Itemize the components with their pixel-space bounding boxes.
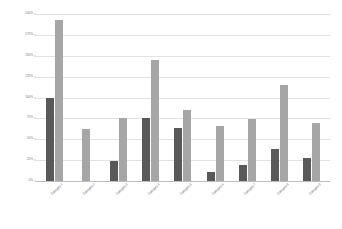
x-label-slot: Category 8: [264, 181, 296, 229]
bar: [183, 110, 191, 181]
bar: [280, 85, 288, 181]
x-tick-label: Category 7: [244, 183, 257, 196]
bar-group: [135, 14, 167, 181]
bar-group: [199, 14, 231, 181]
bar: [207, 172, 215, 181]
bar: [303, 158, 311, 181]
bar: [119, 118, 127, 181]
bar: [216, 126, 224, 181]
plot-area: 0%25%50%75%100%125%150%175%200%: [36, 14, 330, 181]
x-tick-label: Category 5: [180, 183, 193, 196]
x-tick-label: Category 4: [148, 183, 161, 196]
y-tick-label: 50%: [27, 138, 33, 141]
x-axis-labels: Category 1Category 2Category 3Category 4…: [36, 181, 330, 229]
bar: [248, 119, 256, 181]
x-tick-label: Category 8: [277, 183, 290, 196]
x-label-slot: Category 4: [135, 181, 167, 229]
x-tick-label: Category 6: [212, 183, 225, 196]
x-label-slot: Category 6: [199, 181, 231, 229]
bar-group: [70, 14, 102, 181]
x-tick-label: Category 1: [51, 183, 64, 196]
bar: [151, 60, 159, 181]
y-tick-label: 150%: [25, 54, 33, 57]
bar: [142, 118, 150, 181]
x-label-slot: Category 5: [167, 181, 199, 229]
y-tick-label: 125%: [25, 75, 33, 78]
bar-group: [264, 14, 296, 181]
x-label-slot: Category 2: [70, 181, 102, 229]
y-tick-label: 100%: [25, 96, 33, 99]
x-label-slot: Category 1: [38, 181, 70, 229]
bar-group: [38, 14, 70, 181]
bar: [312, 123, 320, 181]
y-tick-label: 175%: [25, 33, 33, 36]
bar-group: [296, 14, 328, 181]
bar: [271, 149, 279, 181]
x-tick-label: Category 9: [309, 183, 322, 196]
bar: [82, 129, 90, 181]
y-tick-label: 25%: [27, 159, 33, 162]
bar-group: [167, 14, 199, 181]
x-label-slot: Category 7: [231, 181, 263, 229]
y-tick-label: 200%: [25, 12, 33, 15]
bar: [55, 20, 63, 181]
x-label-slot: Category 9: [296, 181, 328, 229]
x-label-slot: Category 3: [102, 181, 134, 229]
bar-group: [231, 14, 263, 181]
y-tick-label: 0%: [29, 179, 33, 182]
y-tick-label: 75%: [27, 117, 33, 120]
x-tick-label: Category 3: [115, 183, 128, 196]
x-tick-label: Category 2: [83, 183, 96, 196]
bar-chart: 0%25%50%75%100%125%150%175%200% Category…: [0, 0, 342, 229]
bars-layer: [36, 14, 330, 181]
bar: [46, 98, 54, 182]
bar: [174, 128, 182, 181]
bar: [239, 165, 247, 181]
bar: [110, 161, 118, 181]
bar-group: [102, 14, 134, 181]
